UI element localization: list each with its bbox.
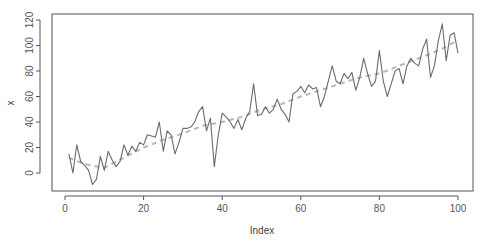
x-tick-label: 100 — [450, 203, 467, 214]
y-axis: 020406080100120 — [24, 11, 40, 176]
x-axis: 020406080100 — [62, 196, 467, 214]
y-tick-label: 0 — [24, 170, 35, 176]
x-tick-label: 40 — [217, 203, 229, 214]
y-tick-label: 80 — [24, 65, 35, 77]
y-tick-label: 40 — [24, 116, 35, 128]
x-tick-label: 20 — [138, 203, 150, 214]
y-axis-title: x — [5, 101, 16, 106]
series-layer — [69, 24, 458, 185]
y-tick-label: 120 — [24, 11, 35, 28]
line-chart: 020406080100120 020406080100 Index x — [0, 0, 488, 242]
x-axis-title: Index — [250, 225, 274, 236]
x-tick-label: 80 — [374, 203, 386, 214]
y-tick-label: 60 — [24, 91, 35, 103]
y-tick-label: 20 — [24, 142, 35, 154]
data-series-line — [69, 24, 458, 185]
y-tick-label: 100 — [24, 37, 35, 54]
x-tick-label: 0 — [62, 203, 68, 214]
x-tick-label: 60 — [295, 203, 307, 214]
smoothed-trend-line — [69, 40, 458, 167]
